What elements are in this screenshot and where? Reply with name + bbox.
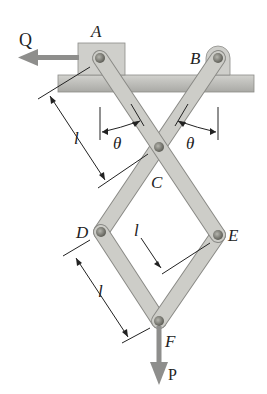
label-b: B <box>190 50 200 67</box>
label-a: A <box>91 23 101 40</box>
pin-f <box>154 316 164 326</box>
label-e: E <box>228 227 238 244</box>
label-length-lower: l <box>98 283 103 300</box>
force-q-arrow <box>18 49 79 66</box>
label-theta-left: θ <box>113 135 121 152</box>
label-length-upper: l <box>74 130 79 147</box>
mechanism-diagram <box>0 0 267 394</box>
pin-e <box>213 230 223 240</box>
pin-c <box>154 142 164 152</box>
label-force-q: Q <box>19 31 32 49</box>
label-d: D <box>76 224 88 241</box>
label-force-p: P <box>168 367 177 383</box>
label-length-middle: l <box>134 222 139 239</box>
ground-surface <box>58 75 254 92</box>
label-c: C <box>151 174 162 191</box>
label-theta-right: θ <box>186 135 194 152</box>
pin-d <box>96 227 106 237</box>
label-f: F <box>165 333 175 350</box>
pin-b <box>213 53 223 63</box>
pin-a <box>95 53 105 63</box>
